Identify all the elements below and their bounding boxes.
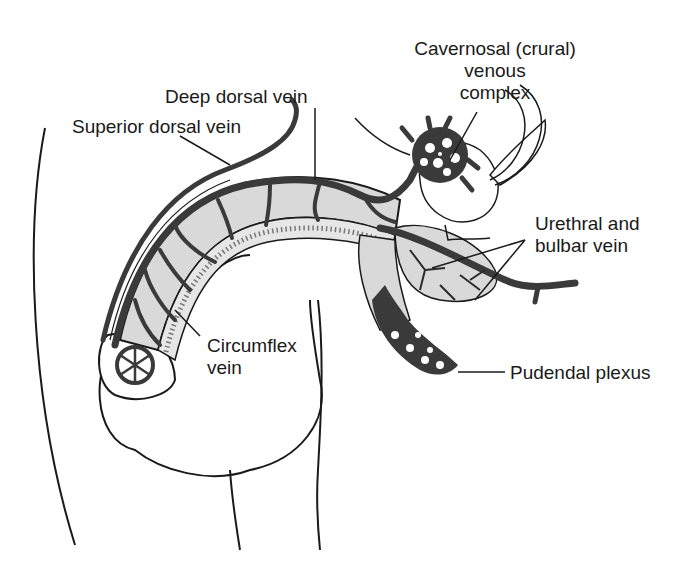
corpus-cavernosum (120, 177, 400, 350)
label-deep-dorsal-vein: Deep dorsal vein (165, 86, 308, 108)
label-cavernosal-complex: Cavernosal (crural) venous complex (400, 38, 590, 104)
label-circumflex-line1: Circumflex (207, 335, 297, 357)
bulbar-branch (535, 287, 538, 302)
label-urethral-line1: Urethral and (535, 213, 640, 235)
label-urethral-line2: bulbar vein (535, 235, 640, 257)
label-cavernosal-line2: venous (400, 60, 590, 82)
label-superior-dorsal-vein: Superior dorsal vein (72, 116, 241, 138)
anatomy-illustration (0, 0, 695, 572)
thigh-lower-line (230, 470, 240, 550)
thigh-inner-line (317, 300, 321, 550)
pelvic-arc (355, 118, 410, 155)
body-outline-left (34, 128, 75, 545)
label-cavernosal-line3: complex (400, 82, 590, 104)
label-urethral-bulbar-vein: Urethral and bulbar vein (535, 213, 640, 257)
label-cavernosal-line1: Cavernosal (crural) (400, 38, 590, 60)
label-pudendal-plexus: Pudendal plexus (510, 362, 651, 384)
label-circumflex-vein: Circumflex vein (207, 335, 297, 379)
label-circumflex-line2: vein (207, 357, 297, 379)
